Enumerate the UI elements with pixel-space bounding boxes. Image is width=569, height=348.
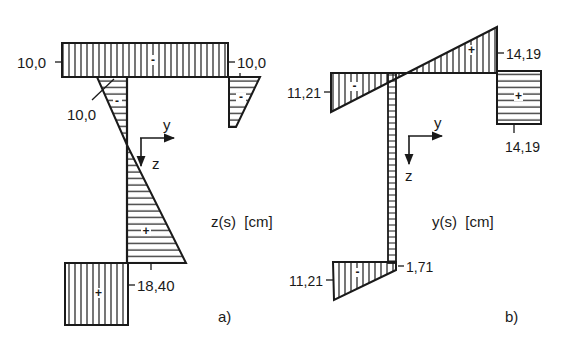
top-right-triangle: + [407,27,497,73]
sign-right-lip-b: + [515,89,522,103]
sign-top-flange: - [151,53,155,67]
label-top-flange-right-b: 14,19 [506,46,541,62]
sign-web-top: - [115,94,119,108]
caption-b: b) [505,308,518,325]
label-bottom-flange-left-b: 11,21 [289,273,323,289]
label-web-top: 10,0 [67,106,96,123]
axes-b: y z [405,114,442,184]
sign-top-left: - [353,79,357,93]
label-bottom-flange-right-b: 1,71 [406,259,433,275]
label-web-bottom: 18,40 [137,277,175,294]
sign-top-right: + [468,43,475,57]
web-strip-b [388,73,396,263]
quantity-label-b: y(s) [cm] [432,213,494,230]
quantity-label-a: z(s) [cm] [211,213,273,230]
bottom-flange-area: + [65,263,128,325]
bottom-flange-area-b: - [333,262,396,300]
sign-right-lip: - [239,90,243,104]
label-top-flange-left: 10,0 [17,54,46,71]
sign-bottom-flange-b: - [356,265,360,279]
diagram-b: - 11,21 + 14,19 + 14,19 - 11 [287,27,541,325]
label-right-lip-bottom-b: 14,19 [505,139,540,155]
axes-a: y z [140,116,174,172]
sign-bottom-flange: + [95,286,102,300]
axis-z-label: z [152,155,160,172]
caption-a: a) [218,308,231,325]
right-lip-area: - [229,73,260,127]
label-top-flange-right: 10,0 [237,54,266,71]
top-flange-area: - [62,43,228,77]
sign-web-bottom: + [142,224,149,238]
web-top-triangle: - [97,77,127,145]
label-top-flange-left-b: 11,21 [287,85,321,101]
axis-y-label-b: y [434,114,442,131]
axis-y-label: y [163,116,171,133]
right-lip-area-b: + [497,71,541,124]
diagram-a: - 10,0 10,0 - - 10,0 + [17,43,273,325]
axis-z-label-b: z [405,167,413,184]
